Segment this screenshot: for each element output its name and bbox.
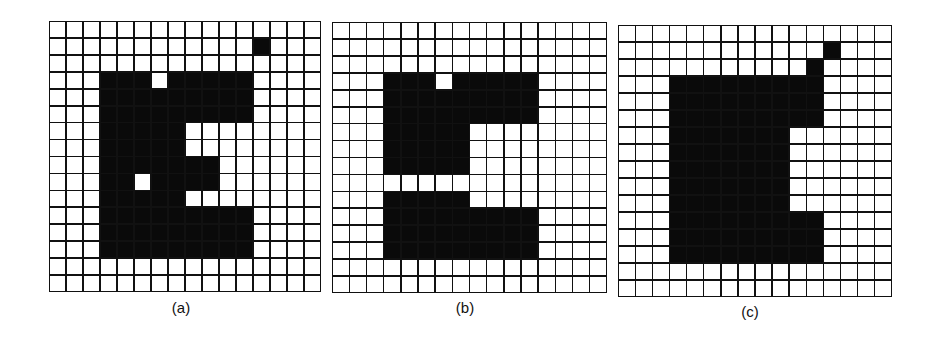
empty-cell xyxy=(67,191,82,206)
empty-cell xyxy=(739,43,755,58)
empty-cell xyxy=(350,158,366,173)
filled-cell xyxy=(186,242,201,257)
empty-cell xyxy=(590,91,606,106)
empty-cell xyxy=(556,57,572,72)
empty-cell xyxy=(522,192,538,207)
empty-cell xyxy=(135,56,150,71)
empty-cell xyxy=(636,128,652,143)
empty-cell xyxy=(152,22,167,37)
empty-cell xyxy=(556,108,572,123)
filled-cell xyxy=(186,90,201,105)
filled-cell xyxy=(704,94,720,109)
empty-cell xyxy=(84,123,99,138)
filled-cell xyxy=(101,174,116,189)
empty-cell xyxy=(271,276,286,291)
empty-cell xyxy=(875,77,891,92)
empty-cell xyxy=(84,242,99,257)
empty-cell xyxy=(505,57,521,72)
empty-cell xyxy=(470,40,486,55)
empty-cell xyxy=(573,175,589,190)
filled-cell xyxy=(739,77,755,92)
filled-cell xyxy=(237,242,252,257)
empty-cell xyxy=(436,40,452,55)
filled-cell xyxy=(453,124,469,139)
empty-cell xyxy=(841,145,857,160)
empty-cell xyxy=(539,158,555,173)
filled-cell xyxy=(135,157,150,172)
empty-cell xyxy=(807,145,823,160)
empty-cell xyxy=(539,277,555,292)
filled-cell xyxy=(756,162,772,177)
empty-cell xyxy=(636,162,652,177)
empty-cell xyxy=(522,277,538,292)
empty-cell xyxy=(367,260,383,275)
filled-cell xyxy=(186,73,201,88)
filled-cell xyxy=(101,140,116,155)
empty-cell xyxy=(84,73,99,88)
filled-cell xyxy=(670,247,686,262)
filled-cell xyxy=(152,90,167,105)
empty-cell xyxy=(875,26,891,41)
empty-cell xyxy=(522,175,538,190)
empty-cell xyxy=(653,60,669,75)
empty-cell xyxy=(288,123,303,138)
empty-cell xyxy=(453,277,469,292)
empty-cell xyxy=(50,123,65,138)
empty-cell xyxy=(305,259,320,274)
empty-cell xyxy=(875,230,891,245)
empty-cell xyxy=(237,191,252,206)
empty-cell xyxy=(773,26,789,41)
empty-cell xyxy=(50,208,65,223)
filled-cell xyxy=(670,230,686,245)
filled-cell xyxy=(118,174,133,189)
empty-cell xyxy=(539,108,555,123)
empty-cell xyxy=(470,158,486,173)
empty-cell xyxy=(67,107,82,122)
filled-cell xyxy=(824,43,840,58)
panel-label-a: (a) xyxy=(151,299,211,316)
empty-cell xyxy=(271,157,286,172)
empty-cell xyxy=(135,259,150,274)
empty-cell xyxy=(220,259,235,274)
empty-cell xyxy=(573,277,589,292)
empty-cell xyxy=(590,277,606,292)
empty-cell xyxy=(505,260,521,275)
empty-cell xyxy=(487,260,503,275)
empty-cell xyxy=(237,174,252,189)
empty-cell xyxy=(875,247,891,262)
filled-cell xyxy=(739,162,755,177)
filled-cell xyxy=(419,158,435,173)
filled-cell xyxy=(790,213,806,228)
filled-cell xyxy=(687,94,703,109)
empty-cell xyxy=(220,22,235,37)
filled-cell xyxy=(118,140,133,155)
empty-cell xyxy=(220,56,235,71)
empty-cell xyxy=(118,259,133,274)
empty-cell xyxy=(203,140,218,155)
empty-cell xyxy=(350,40,366,55)
empty-cell xyxy=(271,140,286,155)
empty-cell xyxy=(350,226,366,241)
empty-cell xyxy=(487,277,503,292)
empty-cell xyxy=(653,128,669,143)
empty-cell xyxy=(367,141,383,156)
empty-cell xyxy=(402,40,418,55)
empty-cell xyxy=(487,141,503,156)
empty-cell xyxy=(590,57,606,72)
empty-cell xyxy=(875,162,891,177)
empty-cell xyxy=(619,213,635,228)
empty-cell xyxy=(487,40,503,55)
empty-cell xyxy=(619,196,635,211)
filled-cell xyxy=(505,209,521,224)
filled-cell xyxy=(756,94,772,109)
filled-cell xyxy=(118,242,133,257)
filled-cell xyxy=(756,179,772,194)
filled-cell xyxy=(704,162,720,177)
empty-cell xyxy=(636,179,652,194)
filled-cell xyxy=(101,242,116,257)
empty-cell xyxy=(271,225,286,240)
empty-cell xyxy=(590,40,606,55)
filled-cell xyxy=(807,247,823,262)
empty-cell xyxy=(384,260,400,275)
binary-grid-b xyxy=(332,22,607,293)
